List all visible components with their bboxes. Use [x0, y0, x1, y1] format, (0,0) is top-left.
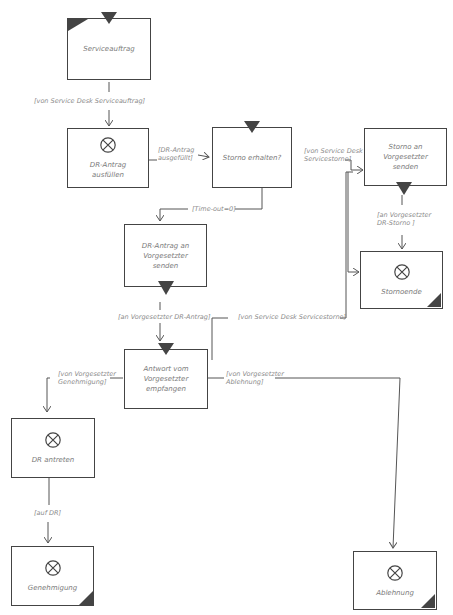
node-label: Serviceauftrag: [77, 44, 140, 54]
start-corner-icon: [68, 19, 90, 33]
receive-triangle-icon: [243, 120, 261, 134]
x-circle-icon: [44, 431, 62, 449]
node-dr-antrag-an-vorgesetzter-senden[interactable]: DR-Antrag an Vorgesetzter senden: [124, 224, 207, 287]
node-label: DR-Antrag an Vorgesetzter senden: [125, 241, 206, 271]
node-antwort-vom-vorgesetzter-empfangen[interactable]: Antwort vom Vorgesetzter empfangen: [124, 349, 208, 409]
x-circle-icon: [99, 136, 117, 154]
receive-triangle-icon: [100, 11, 118, 25]
node-dr-antreten[interactable]: DR antreten: [11, 418, 95, 478]
edge-label-von-vorgesetzter-ablehnung: [von Vorgesetzter Ablehnung]: [226, 370, 284, 386]
node-label: Ablehnung: [370, 588, 420, 598]
edge-label-vom-service-desk-serviceauftrag: [von Service Desk Serviceauftrag]: [34, 97, 145, 105]
end-corner-icon: [79, 591, 94, 606]
send-triangle-icon: [395, 181, 413, 196]
x-circle-icon: [386, 564, 404, 582]
node-label: Genehmigung: [22, 583, 83, 593]
node-label: Storno erhalten?: [217, 153, 287, 163]
edge-label-an-vorgesetzter-dr-storno: [an Vorgesetzter DR-Storno ]: [377, 211, 431, 227]
node-label: DR antreten: [26, 455, 81, 465]
x-circle-icon: [44, 559, 62, 577]
edge-label-dr-antrag-ausgefuellt: [DR-Antrag ausgefüllt]: [158, 146, 194, 162]
edge-label-an-vorgesetzter-dr-antrag: [an Vorgesetzter DR-Antrag]: [118, 313, 210, 321]
receive-triangle-icon: [157, 342, 175, 356]
edge-label-von-vorgesetzter-genehmigung: [von Vorgesetzter Genehmigung]: [58, 370, 116, 386]
node-label: Stornoende: [375, 287, 428, 297]
edge-label-vom-service-desk-servicestorno-2: [von Service Desk Servicestorno]: [238, 313, 346, 321]
node-label: Storno an Vorgesetzter senden: [365, 142, 446, 172]
x-circle-icon: [393, 263, 411, 281]
end-corner-icon: [421, 594, 436, 609]
end-corner-icon: [427, 293, 442, 308]
edge-label-auf-dr: [auf DR]: [34, 509, 61, 517]
edge-label-time-out: [Time-out=0]: [192, 205, 236, 213]
send-triangle-icon: [157, 280, 175, 296]
node-label: DR-Antrag ausfüllen: [68, 160, 148, 180]
edge-label-vom-service-desk-servicestorno: [von Service Desk Servicestorno]: [304, 147, 363, 163]
node-storno-an-vorgesetzter-senden[interactable]: Storno an Vorgesetzter senden: [364, 128, 447, 186]
node-storno-erhalten[interactable]: Storno erhalten?: [212, 127, 292, 188]
node-dr-antrag-ausfuellen[interactable]: DR-Antrag ausfüllen: [67, 128, 149, 188]
node-label: Antwort vom Vorgesetzter empfangen: [125, 364, 207, 394]
